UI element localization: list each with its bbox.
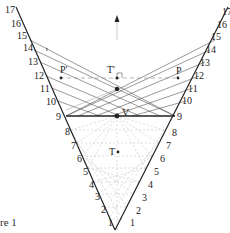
right-tick-12: 12 <box>194 71 204 81</box>
right-tick-17: 17 <box>222 7 230 17</box>
right-tick-2: 2 <box>136 206 141 216</box>
label-t-prime: T' <box>107 65 115 75</box>
left-tick-15: 15 <box>17 31 27 41</box>
left-tick-16: 16 <box>11 19 21 29</box>
right-tick-6: 6 <box>160 154 165 164</box>
left-tick-9: 9 <box>56 112 61 122</box>
right-tick-14: 14 <box>206 45 216 55</box>
right-tick-4: 4 <box>148 180 153 190</box>
left-tick-12: 12 <box>34 71 44 81</box>
left-tick-10: 10 <box>46 97 56 107</box>
left-tick-6: 6 <box>77 154 82 164</box>
left-tick-8: 8 <box>65 127 70 137</box>
point-v <box>115 114 120 119</box>
left-tick-7: 7 <box>71 141 76 151</box>
right-tick-15: 15 <box>211 32 221 42</box>
right-tick-16: 16 <box>217 20 227 30</box>
point-p <box>177 77 180 80</box>
label-p: P <box>176 66 182 76</box>
point-t <box>117 151 120 154</box>
left-tick-13: 13 <box>28 57 38 67</box>
left-tick-5: 5 <box>83 167 88 177</box>
main-v-lines <box>16 7 228 230</box>
right-tick-11: 11 <box>188 84 198 94</box>
right-tick-8: 8 <box>172 128 177 138</box>
label-v: V <box>122 108 129 118</box>
label-t: T <box>109 147 115 157</box>
left-tick-3: 3 <box>95 192 100 202</box>
label-small-t: t <box>46 44 48 54</box>
left-tick-14: 14 <box>23 43 33 53</box>
point-mid <box>115 87 119 91</box>
point-t-prime <box>116 77 119 80</box>
up-arrow-icon <box>115 15 120 40</box>
left-tick-2: 2 <box>101 205 106 215</box>
right-tick-10: 10 <box>182 96 192 106</box>
label-p-prime: P' <box>60 65 67 75</box>
right-tick-1: 1 <box>130 218 135 228</box>
left-tick-11: 11 <box>40 84 50 94</box>
right-tick-13: 13 <box>200 58 210 68</box>
figure-caption: re 1 <box>0 216 17 228</box>
v-shaped-construction-diagram <box>0 0 230 233</box>
right-tick-7: 7 <box>166 141 171 151</box>
left-tick-1: 1 <box>108 218 113 228</box>
right-tick-3: 3 <box>142 193 147 203</box>
point-p-prime <box>60 77 63 80</box>
right-tick-9: 9 <box>177 112 182 122</box>
right-tick-5: 5 <box>154 167 159 177</box>
left-tick-4: 4 <box>89 180 94 190</box>
left-tick-17: 17 <box>5 5 15 15</box>
